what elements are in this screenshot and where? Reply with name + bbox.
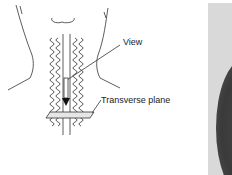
view-label: View: [123, 37, 142, 47]
neck-spine-illustration: [0, 0, 200, 175]
tissue-cross-section-photo: [208, 3, 232, 175]
tissue-section: [216, 58, 232, 175]
transverse-plane-label: Transverse plane: [101, 95, 170, 105]
cervical-spine-diagram: View Transverse plane: [0, 0, 200, 175]
